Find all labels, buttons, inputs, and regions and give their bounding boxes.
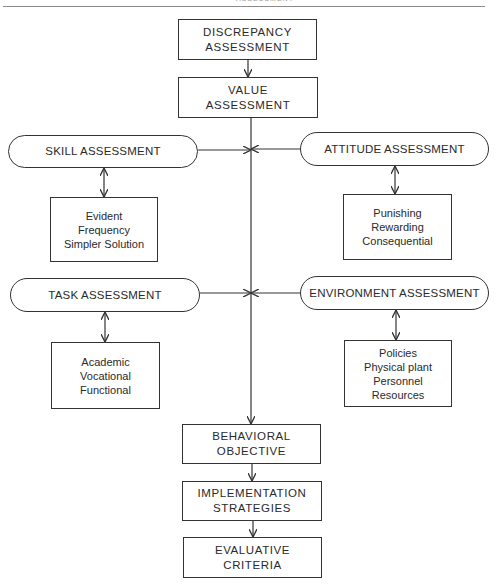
- behavioral-objective-box: BEHAVIORAL OBJECTIVE: [182, 424, 321, 464]
- discrepancy-assessment-box: DISCREPANCY ASSESSMENT: [178, 19, 317, 60]
- task-assessment-label: TASK ASSESSMENT: [48, 288, 161, 303]
- attitude-details-text: Punishing Rewarding Consequential: [362, 206, 432, 248]
- implementation-strategies-box: IMPLEMENTATION STRATEGIES: [182, 481, 322, 521]
- environment-details-box: Policies Physical plant Personnel Resour…: [344, 340, 452, 407]
- attitude-assessment-label: ATTITUDE ASSESSMENT: [324, 142, 464, 157]
- skill-assessment-pill: SKILL ASSESSMENT: [8, 135, 198, 168]
- task-details-text: Academic Vocational Functional: [80, 355, 131, 397]
- behavioral-objective-label: BEHAVIORAL OBJECTIVE: [212, 429, 291, 459]
- environment-assessment-pill: ENVIRONMENT ASSESSMENT: [300, 276, 489, 310]
- task-details-box: Academic Vocational Functional: [51, 342, 160, 409]
- evaluative-criteria-label: EVALUATIVE CRITERIA: [215, 543, 290, 573]
- discrepancy-assessment-label: DISCREPANCY ASSESSMENT: [203, 25, 292, 55]
- attitude-assessment-pill: ATTITUDE ASSESSMENT: [300, 132, 489, 166]
- value-assessment-box: VALUE ASSESSMENT: [178, 77, 318, 118]
- skill-assessment-label: SKILL ASSESSMENT: [45, 144, 160, 159]
- environment-assessment-label: ENVIRONMENT ASSESSMENT: [309, 286, 479, 301]
- value-assessment-label: VALUE ASSESSMENT: [206, 83, 291, 113]
- environment-details-text: Policies Physical plant Personnel Resour…: [364, 346, 432, 402]
- evaluative-criteria-box: EVALUATIVE CRITERIA: [183, 537, 322, 578]
- skill-details-text: Evident Frequency Simpler Solution: [64, 209, 144, 251]
- implementation-strategies-label: IMPLEMENTATION STRATEGIES: [198, 486, 307, 516]
- attitude-details-box: Punishing Rewarding Consequential: [343, 194, 452, 260]
- task-assessment-pill: TASK ASSESSMENT: [10, 278, 200, 312]
- skill-details-box: Evident Frequency Simpler Solution: [50, 197, 158, 262]
